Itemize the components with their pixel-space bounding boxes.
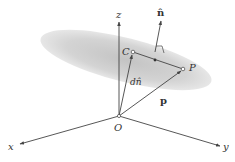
point-o	[117, 114, 120, 117]
plane-ellipse	[35, 17, 216, 102]
p-point-label: P	[188, 62, 196, 73]
x-axis	[20, 116, 119, 144]
point-mid	[154, 59, 157, 62]
y-axis	[119, 116, 220, 146]
point-c	[131, 50, 135, 54]
vector-plane-diagram: z n̂ C P dn̂ p O x y	[0, 0, 235, 162]
x-label: x	[8, 141, 14, 152]
p-vector-label: p	[160, 95, 167, 106]
y-label: y	[222, 141, 229, 152]
point-p	[181, 67, 185, 71]
n-hat-label: n̂	[157, 7, 165, 18]
c-label: C	[122, 46, 130, 57]
z-label: z	[115, 9, 122, 20]
d-n-hat-label: dn̂	[130, 77, 142, 87]
o-label: O	[114, 122, 122, 133]
